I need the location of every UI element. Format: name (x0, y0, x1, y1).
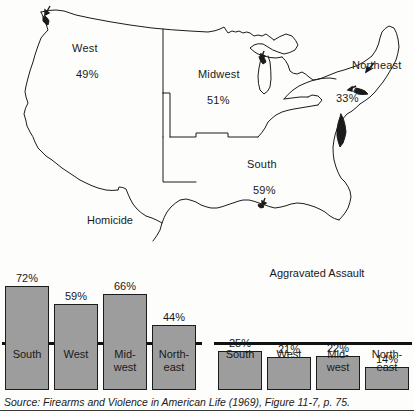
category-label-west: West (277, 348, 302, 361)
map-label-northeast: Northeast (352, 59, 402, 71)
chart-aggravated-assault: Aggravated Assault 25% 21% 22% 14% South… (212, 265, 414, 390)
map-value-midwest: 51% (207, 94, 230, 106)
category-label-northeast-line1: North- (159, 348, 190, 361)
bottom-divider (0, 410, 414, 411)
category-label-south-line1: South (226, 348, 255, 361)
bar-value-south: 72% (16, 272, 38, 284)
map-label-west: West (72, 42, 98, 54)
bar-value-west: 59% (65, 290, 87, 302)
chart-homicide: Homicide 72% 59% 66% 44% South West Mid- (0, 210, 205, 390)
bar-west (54, 304, 98, 390)
bar-column-south: 72% (5, 258, 49, 390)
category-label-midwest: Mid- west (327, 348, 350, 374)
category-label-northeast-line2: east (159, 361, 190, 374)
chart-assault-title: Aggravated Assault (252, 267, 382, 279)
map-value-northeast: 33% (336, 92, 359, 104)
bar-value-midwest: 66% (114, 280, 136, 292)
category-label-northeast-line2: east (372, 361, 403, 374)
category-label-midwest: Mid- west (114, 348, 137, 374)
category-label-south: South (226, 348, 255, 361)
category-label-midwest-line2: west (327, 361, 350, 374)
category-label-northeast: North- east (159, 348, 190, 374)
map-label-south: South (247, 158, 277, 170)
source-caption: Source: Firearms and Violence in America… (4, 396, 350, 408)
category-label-west: West (64, 348, 89, 361)
map-value-south: 59% (253, 184, 276, 196)
category-label-west-line1: West (277, 348, 302, 361)
figure-container: West 49% Midwest 51% Northeast 33% South… (0, 0, 414, 413)
category-label-west-line1: West (64, 348, 89, 361)
bar-south (5, 286, 49, 390)
bar-column-west: 59% (54, 258, 98, 390)
map-value-west: 49% (76, 68, 99, 80)
category-label-northeast-line1: North- (372, 348, 403, 361)
category-label-south-line1: South (13, 348, 42, 361)
bar-midwest (103, 294, 147, 390)
bar-west (267, 357, 311, 390)
category-label-midwest-line2: west (114, 361, 137, 374)
bar-value-northeast: 44% (163, 311, 185, 323)
category-label-northeast: North- east (372, 348, 403, 374)
map-label-midwest: Midwest (198, 68, 240, 80)
chart-homicide-title: Homicide (70, 214, 150, 226)
category-label-midwest-line1: Mid- (114, 348, 137, 361)
category-label-south: South (13, 348, 42, 361)
category-label-midwest-line1: Mid- (327, 348, 350, 361)
